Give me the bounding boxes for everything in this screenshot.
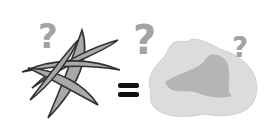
pea-pods-icon [22,30,120,118]
question-mark-left: ? [38,16,58,56]
illustration: ? ? ? [0,0,270,129]
question-mark-middle: ? [133,17,156,63]
equals-icon [118,83,139,97]
question-mark-right: ? [232,31,248,64]
